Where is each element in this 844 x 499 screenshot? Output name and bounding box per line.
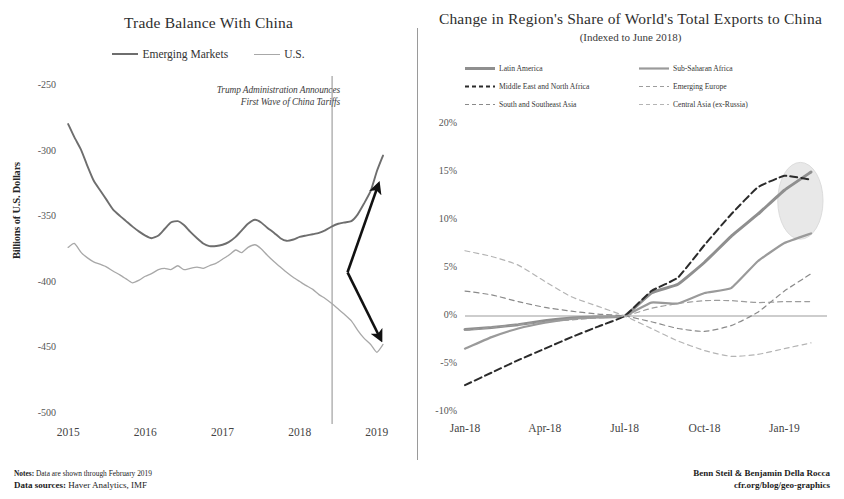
footer-notes-line: Notes: Data are shown through February 2… xyxy=(14,468,152,480)
footer-notes: Notes: Data are shown through February 2… xyxy=(14,468,152,491)
right-y-tick-20pct: 20% xyxy=(421,117,457,128)
right-y-tick-15pct: 15% xyxy=(421,165,457,176)
left-x-tick-2017: 2017 xyxy=(195,426,251,438)
footer-sources-text: Haver Analytics, IMF xyxy=(66,480,147,490)
footer-authors: Benn Steil & Benjamin Della Rocca xyxy=(693,468,830,480)
left-y-tick--300: -300 xyxy=(18,145,56,156)
left-x-tick-2015: 2015 xyxy=(40,426,96,438)
left-x-tick-2018: 2018 xyxy=(272,426,328,438)
divergence-arrow-down xyxy=(348,272,381,339)
right-series-latin-america xyxy=(465,172,811,329)
footer-notes-text: Data are shown through February 2019 xyxy=(34,469,152,478)
left-x-tick-2019: 2019 xyxy=(349,426,405,438)
right-y-tick--10pct: -10% xyxy=(421,405,457,416)
left-series-emerging-markets xyxy=(68,124,383,246)
right-y-tick-5pct: 5% xyxy=(421,261,457,272)
left-chart-panel: Trade Balance With China Emerging Market… xyxy=(0,0,417,499)
right-x-tick-Jan-18: Jan-18 xyxy=(435,422,495,434)
footer-url: cfr.org/blog/geo-graphics xyxy=(693,480,830,492)
left-y-tick--400: -400 xyxy=(18,276,56,287)
right-y-tick--5pct: -5% xyxy=(421,357,457,368)
right-x-tick-Oct-18: Oct-18 xyxy=(675,422,735,434)
right-y-tick-0pct: 0% xyxy=(421,309,457,320)
right-chart-panel: Change in Region's Share of World's Tota… xyxy=(417,0,844,499)
left-y-tick--450: -450 xyxy=(18,341,56,352)
right-series-sub-saharan-africa xyxy=(465,233,811,348)
right-x-tick-Jan-19: Jan-19 xyxy=(754,422,814,434)
footer-notes-label: Notes: xyxy=(14,469,34,478)
divergence-arrow-up xyxy=(348,184,379,272)
footer-sources-label: Data sources: xyxy=(14,480,66,490)
left-y-tick--250: -250 xyxy=(18,79,56,90)
right-x-tick-Jul-18: Jul-18 xyxy=(595,422,655,434)
footer-credit: Benn Steil & Benjamin Della Rocca cfr.or… xyxy=(693,468,830,491)
left-y-tick--500: -500 xyxy=(18,407,56,418)
left-y-tick--350: -350 xyxy=(18,210,56,221)
left-x-tick-2016: 2016 xyxy=(117,426,173,438)
left-chart-plot xyxy=(0,0,417,499)
footer-sources-line: Data sources: Haver Analytics, IMF xyxy=(14,480,152,492)
right-y-tick-10pct: 10% xyxy=(421,213,457,224)
highlight-ellipse xyxy=(778,162,823,239)
right-x-tick-Apr-18: Apr-18 xyxy=(515,422,575,434)
left-series-u-s- xyxy=(68,243,383,352)
